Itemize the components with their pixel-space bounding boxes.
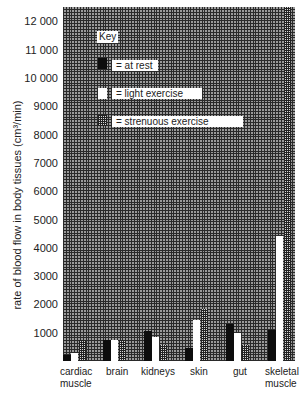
bar-skeletal-muscle-strenuous-exercise	[284, 7, 292, 361]
legend-title: Key	[97, 31, 118, 43]
y-tick-label: 6000	[34, 185, 58, 197]
bar-skeletal-muscle-light-exercise	[276, 236, 284, 361]
legend-swatch-strenuous-exercise	[98, 115, 107, 126]
bar-cardiac-muscle-light-exercise	[71, 353, 79, 361]
bar-brain-light-exercise	[111, 340, 119, 361]
legend-label-light-exercise: = light exercise	[112, 88, 202, 99]
y-tick-label: 3000	[34, 270, 58, 282]
bar-kidneys-light-exercise	[152, 337, 160, 361]
bar-skin-at-rest	[185, 348, 193, 361]
x-category-label: skeletalmuscle	[265, 366, 299, 390]
bar-cardiac-muscle-strenuous-exercise	[79, 340, 87, 361]
bar-skeletal-muscle-at-rest	[268, 330, 276, 361]
legend-swatch-at-rest	[98, 58, 107, 69]
bar-kidneys-strenuous-exercise	[160, 345, 168, 361]
x-category-label: kidneys	[141, 366, 175, 378]
y-tick-label: 7000	[34, 157, 58, 169]
y-tick-label: 5000	[34, 214, 58, 226]
blood-flow-bar-chart: rate of blood flow in body tissues (cm³/…	[0, 0, 302, 394]
bar-skin-strenuous-exercise	[201, 309, 209, 361]
x-category-label: cardiacmuscle	[60, 366, 92, 390]
x-category-label: brain	[106, 366, 128, 378]
x-category-label: gut	[233, 366, 247, 378]
y-tick-label: 8000	[34, 129, 58, 141]
y-tick-label: 11 000	[25, 44, 58, 56]
y-tick-label: 1000	[34, 327, 58, 339]
y-axis-label: rate of blood flow in body tissues (cm³/…	[11, 100, 23, 310]
y-tick-label: 12 000	[24, 15, 58, 27]
bar-gut-at-rest	[226, 324, 234, 361]
bar-brain-strenuous-exercise	[119, 340, 127, 361]
bar-gut-light-exercise	[234, 333, 242, 361]
plot-area: Key = at rest = light exercise = strenuo…	[63, 7, 295, 361]
y-tick-label: 9000	[34, 100, 58, 112]
legend-label-at-rest: = at rest	[112, 60, 158, 71]
legend-label-strenuous-exercise: = strenuous exercise	[112, 116, 243, 127]
bar-gut-strenuous-exercise	[242, 345, 250, 361]
y-tick-label: 2000	[34, 298, 58, 310]
x-category-label: skin	[190, 366, 208, 378]
bar-skin-light-exercise	[193, 320, 201, 361]
bar-brain-at-rest	[103, 340, 111, 361]
bar-cardiac-muscle-at-rest	[63, 355, 71, 361]
legend-swatch-light-exercise	[98, 88, 107, 99]
bar-kidneys-at-rest	[144, 331, 152, 361]
y-tick-label: 4000	[34, 242, 58, 254]
y-tick-label: 10 000	[24, 72, 58, 84]
